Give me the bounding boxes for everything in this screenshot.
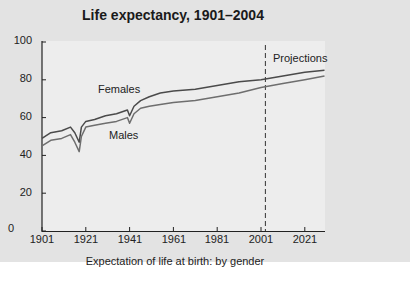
y-tick-label: 40 <box>6 148 32 160</box>
males-series-line <box>42 76 325 152</box>
x-tick-label: 1921 <box>66 233 106 245</box>
y-tick-label: 20 <box>6 186 32 198</box>
projections-label: Projections <box>273 52 327 64</box>
y-tick-label: 100 <box>6 34 32 46</box>
males-label: Males <box>109 129 138 141</box>
x-tick-label: 1981 <box>197 233 237 245</box>
x-axis-caption: Expectation of life at birth: by gender <box>0 255 350 267</box>
x-tick-label: 1961 <box>154 233 194 245</box>
x-tick-label: 1901 <box>22 233 62 245</box>
y-tick-label: 80 <box>6 72 32 84</box>
x-tick-label: 2021 <box>285 233 325 245</box>
females-label: Females <box>98 83 140 95</box>
y-tick-label: 0 <box>4 222 14 234</box>
x-tick-label: 2001 <box>241 233 281 245</box>
x-tick-label: 1941 <box>110 233 150 245</box>
y-tick-label: 60 <box>6 110 32 122</box>
